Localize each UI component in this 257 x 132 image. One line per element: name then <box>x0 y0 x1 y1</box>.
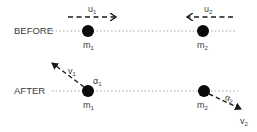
mass-2-ball-before <box>197 25 209 37</box>
u2-label: u2 <box>204 4 213 15</box>
alpha1-label: α1 <box>93 76 102 87</box>
u1-label: u1 <box>88 4 97 15</box>
alpha2-label: α2 <box>224 92 236 105</box>
after-row: AFTER v1 α1 m1 α2 v2 m2 <box>14 63 249 127</box>
m2-label-before: m2 <box>197 40 209 51</box>
v1-label: v1 <box>68 66 77 77</box>
m2-label-after: m2 <box>197 100 209 111</box>
mass-2-ball-after <box>198 85 210 97</box>
mass-1-ball-before <box>82 25 94 37</box>
before-label: BEFORE <box>14 25 53 36</box>
m1-label-before: m1 <box>83 40 95 51</box>
v2-label: v2 <box>240 116 249 127</box>
before-row: BEFORE u1 u2 m1 m2 <box>14 4 236 51</box>
m1-label-after: m1 <box>83 100 95 111</box>
after-label: AFTER <box>14 85 45 96</box>
collision-diagram: BEFORE u1 u2 m1 m2 AFTER v1 α1 m1 α2 v2 … <box>0 0 257 132</box>
mass-1-ball-after <box>82 85 94 97</box>
